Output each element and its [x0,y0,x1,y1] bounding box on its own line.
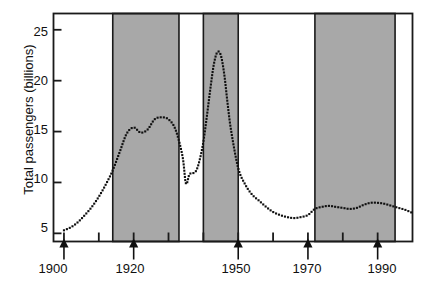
x-tick-label-1970: 1970 [293,261,322,276]
shaded-band-1 [203,14,238,242]
y-tick-label-group: 25 20 15 10 5 [0,0,48,281]
arrow-head-1970 [303,239,312,248]
x-tick-label-1950: 1950 [222,261,251,276]
shaded-band-2 [315,14,395,242]
x-tick-label-1900: 1900 [39,261,68,276]
x-tick-label-1990: 1990 [368,261,397,276]
arrow-head-1900 [59,239,68,248]
y-tick-label-10: 10 [4,171,48,186]
y-tick-marks [54,30,62,234]
x-tick-label-1920: 1920 [116,261,145,276]
y-tick-label-5: 5 [4,220,48,235]
y-tick-label-15: 15 [4,122,48,137]
y-tick-label-20: 20 [4,73,48,88]
plot-area [0,0,428,281]
shaded-bands-group [113,14,395,242]
shaded-band-0 [113,14,179,242]
chart-figure: Total passengers (billions) 25 20 15 10 … [0,0,428,281]
y-tick-label-25: 25 [4,24,48,39]
